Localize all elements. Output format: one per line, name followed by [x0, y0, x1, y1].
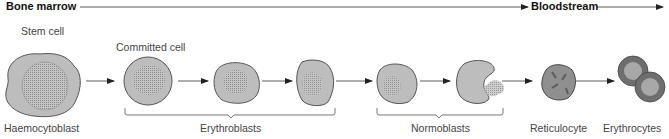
erythroblasts-bracket — [125, 108, 335, 118]
erythroblast-cell-2 — [297, 60, 334, 106]
erythrocyte-cells — [618, 56, 665, 102]
normoblast-cell-1 — [377, 64, 417, 104]
normoblasts-bracket — [377, 108, 503, 118]
erythropoiesis-diagram — [0, 0, 669, 139]
erythroblast-cell-1 — [214, 63, 259, 104]
committed-cell — [124, 57, 172, 105]
reticulocyte-cell — [542, 65, 576, 100]
haemocytoblast-cell — [6, 54, 80, 117]
normoblast-cell-2-ejecting-nucleus — [457, 61, 505, 104]
